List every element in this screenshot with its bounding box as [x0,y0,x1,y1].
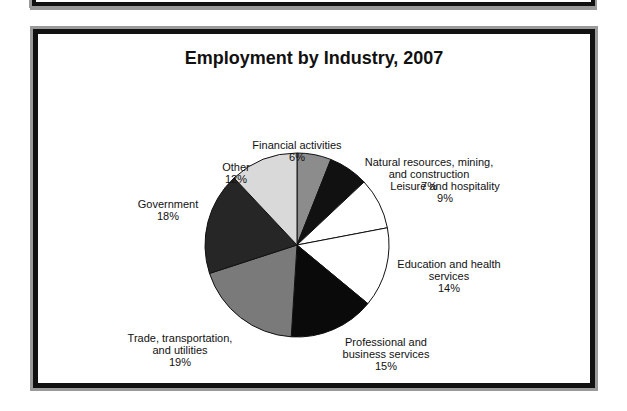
label-leisure: Leisure and hospitality9% [390,180,499,204]
label-education: Education and healthservices14% [397,258,500,294]
label-professional: Professional andbusiness services15% [343,336,430,372]
label-other: Other12% [222,161,250,185]
label-trade: Trade, transportation,and utilities19% [128,332,233,368]
label-government: Government18% [138,198,199,222]
label-financial: Financial activities6% [252,139,341,163]
pie-chart [0,0,627,411]
